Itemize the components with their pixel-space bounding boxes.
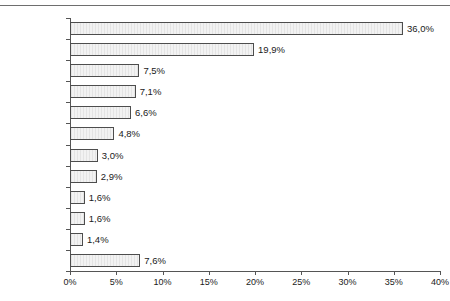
bar-hörbücher xyxy=(70,85,136,98)
bar-value-label: 4,8% xyxy=(118,127,140,140)
category-tick xyxy=(66,102,70,103)
bar-rock xyxy=(70,43,254,56)
bar-value-label: 7,1% xyxy=(140,85,162,98)
value-tick xyxy=(209,271,210,275)
top-divider-rule xyxy=(0,5,450,6)
value-tick xyxy=(70,271,71,275)
bar-value-label: 1,6% xyxy=(89,212,111,225)
bar-value-label: 36,0% xyxy=(407,22,434,35)
category-tick xyxy=(66,60,70,61)
bar-deutschpop xyxy=(70,170,97,183)
category-tick xyxy=(66,39,70,40)
plot-area: 36,0%19,9%7,5%7,1%6,6%4,8%3,0%2,9%1,6%1,… xyxy=(70,18,440,271)
value-tick xyxy=(255,271,256,275)
bar-value-label: 7,6% xyxy=(144,254,166,267)
value-tick-label: 35% xyxy=(374,277,414,288)
category-tick xyxy=(66,81,70,82)
value-tick xyxy=(440,271,441,275)
value-tick-label: 10% xyxy=(143,277,183,288)
value-tick-label: 5% xyxy=(96,277,136,288)
bar-hip-hop xyxy=(70,212,85,225)
value-tick xyxy=(163,271,164,275)
value-tick-label: 0% xyxy=(50,277,90,288)
value-tick xyxy=(116,271,117,275)
category-tick xyxy=(66,229,70,230)
bar-value-label: 6,6% xyxy=(135,106,157,119)
bar-sonstige xyxy=(70,254,140,267)
value-tick-label: 25% xyxy=(281,277,321,288)
category-tick xyxy=(66,187,70,188)
category-tick xyxy=(66,250,70,251)
category-tick xyxy=(66,166,70,167)
value-tick xyxy=(301,271,302,275)
bar-pop xyxy=(70,22,403,35)
category-tick xyxy=(66,208,70,209)
bar-value-label: 1,4% xyxy=(87,233,109,246)
bar-chart: 36,0%19,9%7,5%7,1%6,6%4,8%3,0%2,9%1,6%1,… xyxy=(0,0,450,301)
value-tick-label: 15% xyxy=(189,277,229,288)
value-tick-label: 40% xyxy=(420,277,450,288)
bar-value-label: 19,9% xyxy=(258,43,285,56)
bar-value-label: 2,9% xyxy=(101,170,123,183)
bar-kinderprodukte xyxy=(70,106,131,119)
value-tick xyxy=(394,271,395,275)
category-tick xyxy=(66,145,70,146)
bar-volksmusik xyxy=(70,191,85,204)
bar-schlager xyxy=(70,127,114,140)
bar-value-label: 3,0% xyxy=(102,149,124,162)
value-tick xyxy=(348,271,349,275)
bar-dance xyxy=(70,149,98,162)
bar-jazz xyxy=(70,233,83,246)
value-tick-label: 30% xyxy=(328,277,368,288)
value-tick-label: 20% xyxy=(235,277,275,288)
bar-value-label: 7,5% xyxy=(143,64,165,77)
bar-klassik xyxy=(70,64,139,77)
bar-value-label: 1,6% xyxy=(89,191,111,204)
category-tick xyxy=(66,123,70,124)
category-tick xyxy=(66,18,70,19)
